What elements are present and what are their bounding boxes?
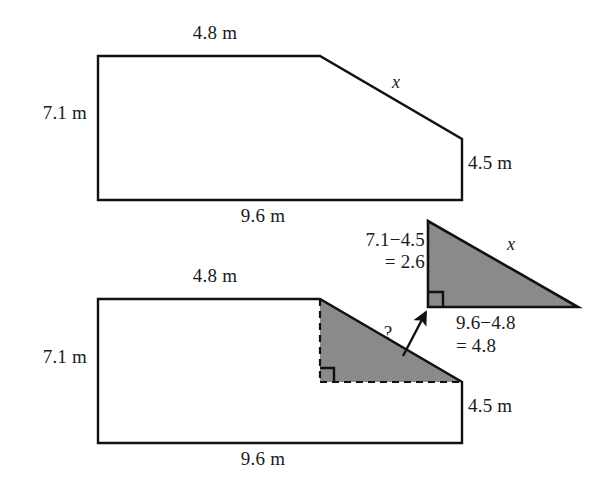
- bottom-figure-top-label: 4.8 m: [193, 265, 237, 287]
- top-figure-left-label: 7.1 m: [43, 102, 87, 124]
- extracted-right-triangle: [428, 221, 578, 307]
- bottom-figure-group: [98, 299, 462, 443]
- top-composite-outline: [98, 56, 462, 200]
- extracted-vertical-leg-label-line2: = 2.6: [385, 250, 425, 274]
- bottom-figure-unknown-marker: ?: [384, 322, 393, 344]
- top-figure-group: [98, 56, 462, 200]
- top-figure-bottom-label: 9.6 m: [241, 205, 285, 227]
- extraction-arrow: [403, 312, 426, 356]
- extracted-horizontal-leg-label-line2: = 4.8: [456, 334, 496, 358]
- extracted-vertical-leg-label-line1: 7.1−4.5: [365, 228, 425, 252]
- extracted-horizontal-leg-label-line1: 9.6−4.8: [456, 311, 516, 335]
- top-figure-top-label: 4.8 m: [193, 22, 237, 44]
- extraction-arrow-group: [403, 312, 426, 356]
- bottom-figure-left-label: 7.1 m: [43, 346, 87, 368]
- top-figure-hypotenuse-label: x: [392, 72, 400, 93]
- top-figure-right-label: 4.5 m: [468, 152, 512, 174]
- extracted-hypotenuse-label: x: [507, 234, 515, 255]
- bottom-figure-bottom-label: 9.6 m: [241, 448, 285, 470]
- bottom-figure-right-label: 4.5 m: [468, 395, 512, 417]
- extracted-triangle-group: [428, 221, 578, 307]
- geometry-diagram: 4.8 m 7.1 m 9.6 m 4.5 m x 7.1−4.5 = 2.6 …: [0, 0, 603, 495]
